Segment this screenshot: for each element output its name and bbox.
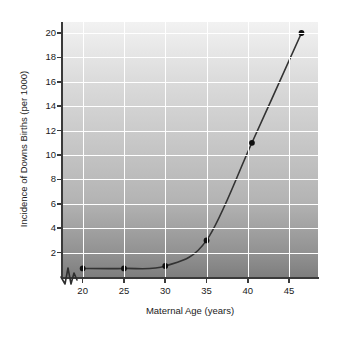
x-tick-mark	[288, 279, 290, 283]
y-tick-mark	[57, 130, 61, 132]
y-tick-mark	[57, 252, 61, 254]
y-tick-mark	[57, 179, 61, 181]
gridline-horizontal	[62, 57, 318, 58]
y-tick-label: 6	[10, 199, 56, 209]
y-tick-mark	[57, 57, 61, 59]
y-tick-label-wrap: 18	[0, 52, 56, 62]
gridline-vertical	[248, 22, 249, 277]
gridline-horizontal	[62, 131, 318, 132]
x-tick-mark	[123, 279, 125, 283]
y-tick-label-wrap: 8	[0, 174, 56, 184]
gridline-vertical	[124, 22, 125, 277]
gridline-horizontal	[62, 106, 318, 107]
x-tick-mark	[247, 279, 249, 283]
gridline-horizontal	[62, 204, 318, 205]
y-tick-label: 4	[10, 223, 56, 233]
gridline-horizontal	[62, 33, 318, 34]
plot-area	[62, 22, 318, 277]
x-tick-mark	[206, 279, 208, 283]
x-tick-label: 20	[68, 285, 98, 296]
y-tick-label: 8	[10, 174, 56, 184]
x-tick-label: 40	[233, 285, 263, 296]
y-tick-mark	[57, 203, 61, 205]
gridline-vertical	[165, 22, 166, 277]
y-tick-label-wrap: 20	[0, 28, 56, 38]
y-tick-label: 10	[10, 150, 56, 160]
y-tick-label-wrap: 16	[0, 77, 56, 87]
gridline-horizontal	[62, 179, 318, 180]
y-tick-mark	[57, 227, 61, 229]
data-point-marker	[249, 140, 255, 146]
y-tick-mark	[57, 32, 61, 34]
axis-break-zigzag	[61, 268, 77, 284]
y-tick-label-wrap: 14	[0, 101, 56, 111]
data-series-line	[62, 22, 318, 277]
x-tick-label: 25	[109, 285, 139, 296]
y-tick-label-wrap: 6	[0, 199, 56, 209]
series-line	[83, 33, 302, 269]
x-axis-line	[61, 277, 319, 279]
y-tick-label-wrap: 12	[0, 126, 56, 136]
y-tick-mark	[57, 81, 61, 83]
gridline-horizontal	[62, 82, 318, 83]
y-tick-mark	[57, 154, 61, 156]
y-tick-label-wrap: 10	[0, 150, 56, 160]
y-tick-label-wrap: 4	[0, 223, 56, 233]
y-tick-mark	[57, 105, 61, 107]
gridline-horizontal	[62, 155, 318, 156]
gridline-vertical	[207, 22, 208, 277]
x-tick-label: 30	[150, 285, 180, 296]
x-tick-mark	[164, 279, 166, 283]
gridline-vertical	[83, 22, 84, 277]
gridline-horizontal	[62, 228, 318, 229]
x-tick-mark	[82, 279, 84, 283]
y-tick-label-wrap: 2	[0, 248, 56, 258]
chart-figure: Incidence of Downs Births (per 1000) 246…	[0, 0, 337, 337]
x-tick-label: 35	[192, 285, 222, 296]
gridline-vertical	[289, 22, 290, 277]
gridline-horizontal	[62, 253, 318, 254]
y-tick-label: 20	[10, 28, 56, 38]
y-tick-label: 16	[10, 77, 56, 87]
y-tick-label: 2	[10, 248, 56, 258]
x-axis-title: Maternal Age (years)	[62, 305, 318, 316]
y-tick-label: 14	[10, 101, 56, 111]
x-tick-label: 45	[274, 285, 304, 296]
y-axis-line	[61, 22, 63, 278]
y-tick-label: 18	[10, 52, 56, 62]
y-tick-label: 12	[10, 126, 56, 136]
